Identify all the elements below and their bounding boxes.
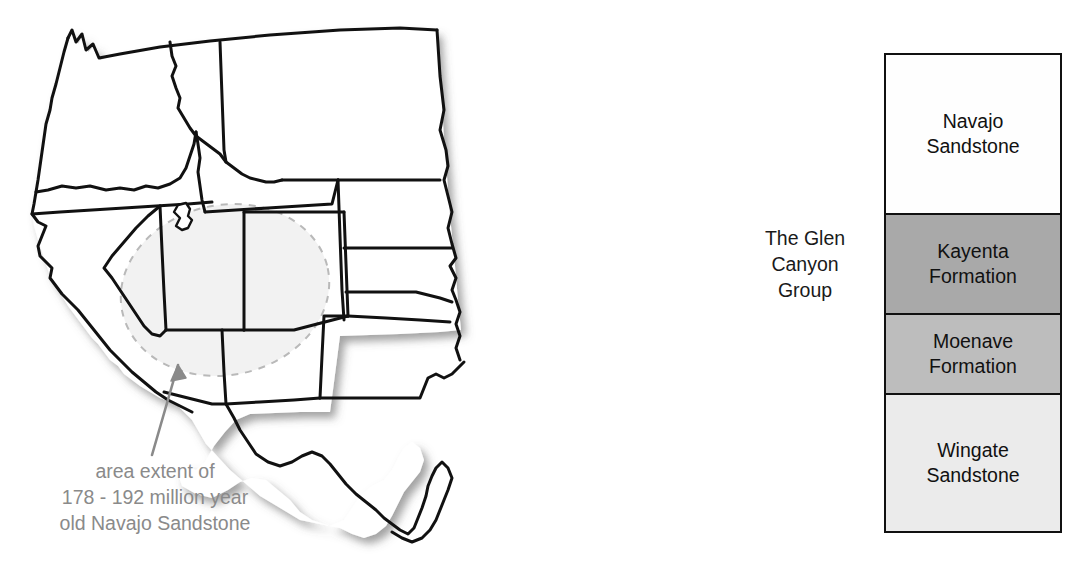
figure-root: area extent of 178 - 192 million year ol…: [0, 0, 1083, 562]
map-panel: area extent of 178 - 192 million year ol…: [0, 0, 520, 562]
glen-canyon-group-label: The Glen Canyon Group: [740, 225, 870, 303]
stratigraphic-column-panel: The Glen Canyon Group Navajo Sandstone K…: [740, 0, 1083, 562]
strat-unit-wingate-sandstone: Wingate Sandstone: [886, 393, 1060, 531]
stratigraphic-column: Navajo Sandstone Kayenta Formation Moena…: [884, 53, 1062, 533]
map-caption: area extent of 178 - 192 million year ol…: [10, 458, 300, 536]
strat-unit-kayenta-formation: Kayenta Formation: [886, 213, 1060, 313]
strat-unit-moenave-formation: Moenave Formation: [886, 313, 1060, 393]
strat-unit-navajo-sandstone: Navajo Sandstone: [886, 55, 1060, 213]
border-ok-tx: [320, 362, 464, 398]
